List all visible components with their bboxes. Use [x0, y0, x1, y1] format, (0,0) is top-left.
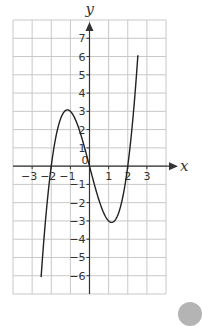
y-tick-label: −4	[69, 233, 85, 246]
y-tick-label: 7	[79, 32, 86, 45]
x-axis-arrow-icon	[169, 162, 178, 170]
y-tick-label: 6	[79, 51, 86, 64]
x-tick-label: −1	[59, 170, 75, 183]
y-tick-label: 3	[79, 105, 86, 118]
y-axis-arrow-icon	[86, 22, 94, 31]
x-tick-label: −2	[40, 170, 56, 183]
y-tick-label: 5	[79, 69, 86, 82]
x-tick-label: 1	[105, 170, 112, 183]
y-axis-label: y	[85, 0, 95, 18]
corner-badge	[178, 302, 202, 326]
y-tick-label: −2	[69, 197, 85, 210]
y-tick-label: −6	[69, 270, 85, 283]
y-tick-label: −3	[69, 215, 85, 228]
y-tick-label: 4	[79, 87, 86, 100]
x-tick-label: −3	[21, 170, 37, 183]
x-axis-label: x	[180, 157, 189, 175]
y-tick-label: −5	[69, 251, 85, 264]
x-tick-label: 3	[143, 170, 150, 183]
